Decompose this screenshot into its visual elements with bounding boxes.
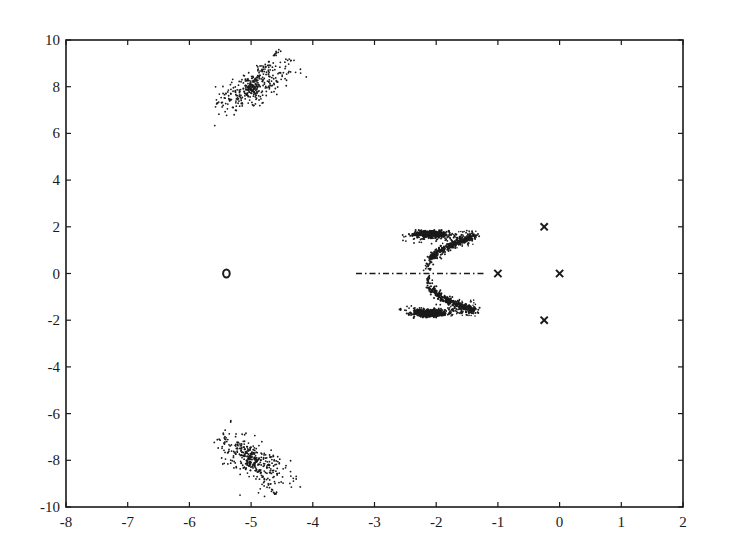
data-point (458, 237, 460, 239)
data-point (470, 315, 472, 317)
data-point (261, 78, 263, 80)
data-point (241, 105, 243, 107)
data-point (272, 489, 274, 491)
data-point (402, 240, 404, 242)
data-point (273, 54, 275, 56)
data-point (247, 461, 249, 463)
data-point (266, 71, 268, 73)
data-point (274, 69, 276, 71)
data-point (456, 239, 458, 241)
data-point (239, 448, 241, 450)
data-point (231, 82, 233, 84)
data-point (418, 241, 420, 243)
data-point (216, 439, 218, 441)
data-point (439, 291, 441, 293)
data-point (466, 307, 468, 309)
data-point (256, 459, 258, 461)
data-point (431, 289, 433, 291)
data-point (277, 456, 279, 458)
data-point (405, 310, 407, 312)
data-point (430, 256, 432, 258)
data-point (225, 439, 227, 441)
data-point (260, 456, 262, 458)
data-point (241, 79, 243, 81)
data-point (256, 65, 258, 67)
data-point (431, 279, 433, 281)
data-point (278, 49, 280, 51)
data-point (446, 234, 448, 236)
data-point (255, 451, 257, 453)
data-point (262, 76, 264, 78)
data-point (425, 265, 427, 267)
data-point (453, 241, 455, 243)
data-point (419, 310, 421, 312)
data-point (269, 461, 271, 463)
data-point (427, 256, 429, 258)
data-point (261, 441, 263, 443)
data-point (424, 314, 426, 316)
data-point (238, 442, 240, 444)
data-point (284, 61, 286, 63)
data-point (271, 77, 273, 79)
data-point (258, 99, 260, 101)
data-point (252, 81, 254, 83)
data-point (273, 492, 275, 494)
data-point (290, 475, 292, 477)
data-point (421, 313, 423, 315)
data-point (268, 79, 270, 81)
data-point (233, 452, 235, 454)
data-point (268, 61, 270, 63)
data-point (467, 242, 469, 244)
data-point (273, 78, 275, 80)
y-tick-label: 2 (53, 219, 61, 235)
data-point (288, 72, 290, 74)
data-point (242, 464, 244, 466)
data-point (435, 294, 437, 296)
data-point (271, 462, 273, 464)
data-point (260, 459, 262, 461)
data-point (456, 247, 458, 249)
data-point (417, 235, 419, 237)
data-point (249, 461, 251, 463)
data-point (451, 296, 453, 298)
data-point (241, 102, 243, 104)
data-point (216, 102, 218, 104)
data-point (238, 89, 240, 91)
data-point (450, 234, 452, 236)
data-point (227, 451, 229, 453)
data-point (265, 472, 267, 474)
data-point (423, 238, 425, 240)
data-point (224, 429, 226, 431)
data-point (284, 78, 286, 80)
data-point (434, 253, 436, 255)
data-point (419, 309, 421, 311)
data-point (450, 239, 452, 241)
data-point (235, 109, 237, 111)
data-point (230, 459, 232, 461)
data-point (285, 467, 287, 469)
data-point (442, 236, 444, 238)
data-point (470, 300, 472, 302)
data-point (256, 87, 258, 89)
data-point (251, 77, 253, 79)
data-point (269, 456, 271, 458)
data-point (238, 81, 240, 83)
data-point (264, 463, 266, 465)
data-point (437, 236, 439, 238)
data-point (225, 458, 227, 460)
data-point (478, 235, 480, 237)
data-point (285, 85, 287, 87)
data-point (282, 482, 284, 484)
data-point (258, 445, 260, 447)
data-point (269, 464, 271, 466)
data-point (288, 58, 290, 60)
data-point (236, 451, 238, 453)
data-point (237, 444, 239, 446)
data-point (293, 480, 295, 482)
data-point (475, 236, 477, 238)
data-point (444, 314, 446, 316)
data-point (433, 235, 435, 237)
data-point (460, 308, 462, 310)
data-point (269, 470, 271, 472)
data-point (452, 308, 454, 310)
